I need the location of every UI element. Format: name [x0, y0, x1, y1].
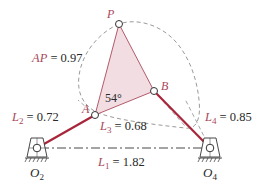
pin-joint-p [116, 21, 123, 28]
pin-joint-o4 [206, 144, 214, 152]
point-label-b: B [161, 80, 168, 92]
point-label-a: A [82, 103, 89, 115]
pin-joint-b [151, 88, 158, 95]
point-label-p: P [107, 8, 114, 20]
rocker-link-l4 [154, 91, 210, 148]
dimension-l3: L3 = 0.68 [100, 120, 147, 133]
dimension-l2: L2 = 0.72 [12, 111, 59, 124]
ground-label-o4: O4 [203, 166, 217, 179]
coupler-triangle [95, 24, 154, 115]
ground-label-o2: O2 [30, 166, 44, 179]
pin-joint-o2 [33, 144, 41, 152]
dimension-l1: L1 = 1.82 [98, 156, 145, 169]
fourbar-diagram: P A B O2 O4 54° AP = 0.97 L2 = 0.72 L3 =… [0, 0, 268, 187]
dimension-l4: L4 = 0.85 [205, 111, 252, 124]
dimension-ap: AP = 0.97 [32, 52, 82, 65]
pin-joint-a [92, 112, 99, 119]
coupler-angle-label: 54° [105, 92, 122, 104]
